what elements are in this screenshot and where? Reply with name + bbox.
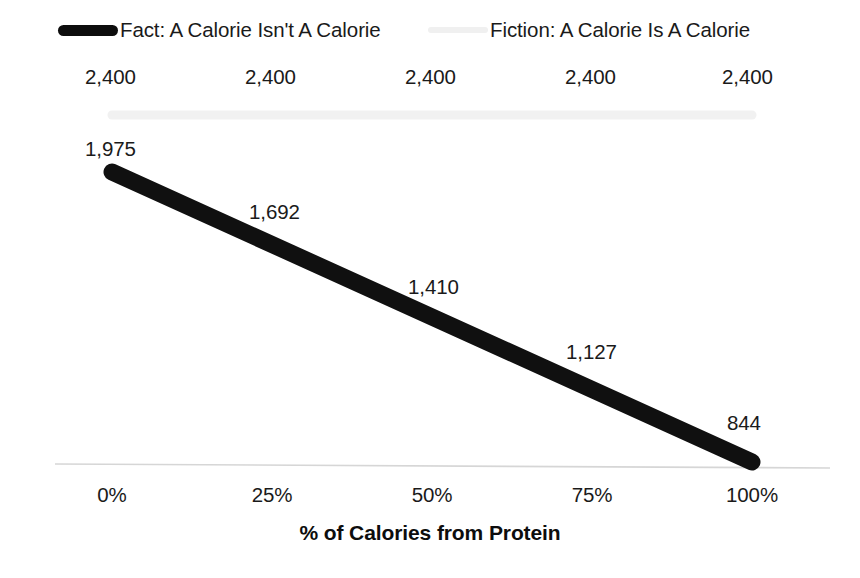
- data-label-fact-3: 1,127: [566, 340, 617, 364]
- x-tick-label-4: 100%: [726, 483, 778, 507]
- data-label-fact-1: 1,692: [249, 200, 300, 224]
- data-label-fact-4: 844: [727, 411, 761, 435]
- data-label-fiction-3: 2,400: [565, 65, 616, 89]
- x-tick-label-1: 25%: [252, 483, 293, 507]
- x-axis-line: [55, 464, 830, 468]
- x-tick-label-0: 0%: [97, 483, 126, 507]
- series-line-fact: [112, 172, 752, 462]
- data-label-fiction-4: 2,400: [722, 65, 773, 89]
- data-label-fiction-0: 2,400: [85, 65, 136, 89]
- x-tick-label-2: 50%: [412, 483, 453, 507]
- data-label-fact-0: 1,975: [85, 137, 136, 161]
- x-tick-label-3: 75%: [572, 483, 613, 507]
- chart-container: Fact: A Calorie Isn't A Calorie Fiction:…: [0, 0, 860, 578]
- data-label-fiction-1: 2,400: [245, 65, 296, 89]
- x-axis-title: % of Calories from Protein: [0, 521, 860, 545]
- data-label-fiction-2: 2,400: [405, 65, 456, 89]
- data-label-fact-2: 1,410: [408, 275, 459, 299]
